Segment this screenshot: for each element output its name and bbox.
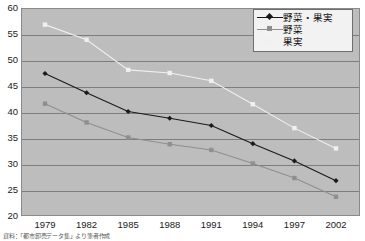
data-point-marker bbox=[334, 195, 338, 199]
legend-key-combined-icon bbox=[257, 12, 283, 23]
chart-container: 605550454035302520 197919821985198819911… bbox=[0, 0, 365, 241]
legend-label-fruits: 果実 bbox=[283, 36, 303, 47]
legend-label-vegetables: 野菜 bbox=[283, 24, 303, 35]
data-point-marker bbox=[334, 146, 338, 150]
data-point-marker bbox=[292, 176, 296, 180]
legend-item-vegetables[interactable]: 野菜 bbox=[257, 24, 349, 35]
data-point-marker bbox=[42, 71, 47, 76]
data-point-marker bbox=[84, 38, 88, 42]
data-point-marker bbox=[167, 116, 172, 121]
data-point-marker bbox=[43, 22, 47, 26]
legend-key-fruits-icon bbox=[257, 36, 283, 47]
source-caption: 資料：「都市卸売データ集」より筆者作成 bbox=[3, 232, 110, 240]
data-point-marker bbox=[209, 79, 213, 83]
data-point-marker bbox=[251, 161, 255, 165]
legend-key-vegetables-icon bbox=[257, 24, 283, 35]
data-point-marker bbox=[43, 101, 47, 105]
legend-item-combined[interactable]: 野菜・果実 bbox=[257, 12, 349, 23]
data-point-marker bbox=[168, 71, 172, 75]
legend-item-fruits[interactable]: 果実 bbox=[257, 36, 349, 47]
data-point-marker bbox=[84, 120, 88, 124]
series-野菜 bbox=[43, 101, 338, 198]
series-line bbox=[45, 104, 336, 197]
data-point-marker bbox=[126, 109, 131, 114]
data-point-marker bbox=[168, 142, 172, 146]
data-point-marker bbox=[292, 126, 296, 130]
data-point-marker bbox=[333, 178, 338, 183]
data-point-marker bbox=[84, 90, 89, 95]
data-point-marker bbox=[292, 158, 297, 163]
data-point-marker bbox=[126, 68, 130, 72]
data-point-marker bbox=[251, 102, 255, 106]
data-point-marker bbox=[126, 135, 130, 139]
data-point-marker bbox=[209, 123, 214, 128]
data-point-marker bbox=[209, 148, 213, 152]
legend-label-combined: 野菜・果実 bbox=[283, 12, 333, 23]
data-point-marker bbox=[250, 141, 255, 146]
legend: 野菜・果実 野菜 果実 bbox=[253, 9, 353, 52]
